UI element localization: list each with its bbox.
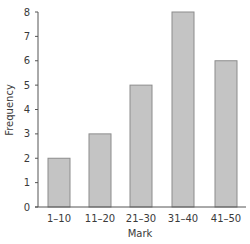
y-tick-label: 7 [24, 31, 30, 42]
y-tick-label: 4 [24, 104, 30, 115]
y-tick-label: 8 [24, 7, 30, 18]
bar-21–30 [130, 85, 152, 207]
bar-1–10 [48, 158, 70, 207]
bars-group [48, 12, 237, 207]
x-tick-label: 41–50 [211, 213, 241, 224]
y-tick-label: 1 [24, 177, 30, 188]
y-tick-label: 2 [24, 153, 30, 164]
x-axis-title: Mark [128, 228, 153, 239]
bar-31–40 [172, 12, 194, 207]
x-axis: 1–1011–2021–3031–4041–50 [35, 207, 246, 224]
x-tick-label: 21–30 [126, 213, 156, 224]
y-axis: 012345678 [24, 7, 38, 213]
y-tick-label: 3 [24, 128, 30, 139]
x-tick-label: 11–20 [85, 213, 115, 224]
x-tick-label: 31–40 [168, 213, 198, 224]
y-axis-title: Frequency [4, 84, 15, 136]
frequency-bar-chart: 012345678 1–1011–2021–3031–4041–50 Frequ… [0, 0, 250, 244]
y-tick-label: 6 [24, 55, 30, 66]
bar-41–50 [215, 61, 237, 207]
bar-11–20 [89, 134, 111, 207]
x-tick-label: 1–10 [47, 213, 71, 224]
y-tick-label: 5 [24, 80, 30, 91]
y-tick-label: 0 [24, 202, 30, 213]
